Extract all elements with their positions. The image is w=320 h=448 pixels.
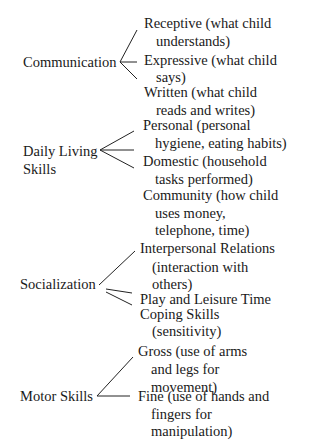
subdomain-domestic: Domestic (household — [143, 153, 267, 169]
domain-motor-skills: Motor Skills — [20, 388, 93, 404]
subdomain-personal: Personal (personal — [143, 117, 251, 133]
subdomain-community-cont: uses money, — [155, 205, 226, 221]
subdomain-domestic-cont: tasks performed) — [155, 171, 253, 187]
subdomain-interpersonal-cont: (interaction with — [152, 259, 248, 275]
subdomain-coping-cont: (sensitivity) — [152, 323, 221, 339]
subdomain-personal-cont: hygiene, eating habits) — [155, 135, 287, 151]
subdomain-coping: Coping Skills — [140, 306, 219, 322]
subdomain-fine: Fine (use of hands and — [138, 388, 269, 404]
subdomain-expressive-cont: says) — [156, 69, 186, 85]
subdomain-written-cont: reads and writes) — [156, 102, 255, 118]
subdomain-community: Community (how child — [143, 187, 278, 203]
domain-daily-living-cont: Skills — [23, 161, 56, 177]
subdomain-play-leisure: Play and Leisure Time — [140, 291, 271, 307]
subdomain-expressive: Expressive (what child — [144, 52, 277, 68]
domain-socialization: Socialization — [20, 276, 96, 292]
subdomain-community-cont2: telephone, time) — [155, 222, 249, 238]
domain-communication: Communication — [23, 54, 116, 70]
subdomain-fine-cont: fingers for — [151, 406, 212, 422]
subdomain-gross: Gross (use of arms — [138, 343, 247, 359]
subdomain-interpersonal: Interpersonal Relations — [140, 240, 275, 256]
domain-daily-living: Daily Living — [23, 143, 98, 159]
subdomain-interpersonal-cont2: others) — [152, 276, 192, 292]
subdomain-receptive-cont: understands) — [156, 33, 230, 49]
subdomain-receptive: Receptive (what child — [144, 15, 271, 31]
subdomain-written: Written (what child — [144, 84, 257, 100]
subdomain-gross-cont: and legs for — [151, 361, 219, 377]
subdomain-fine-cont2: manipulation) — [151, 423, 232, 439]
